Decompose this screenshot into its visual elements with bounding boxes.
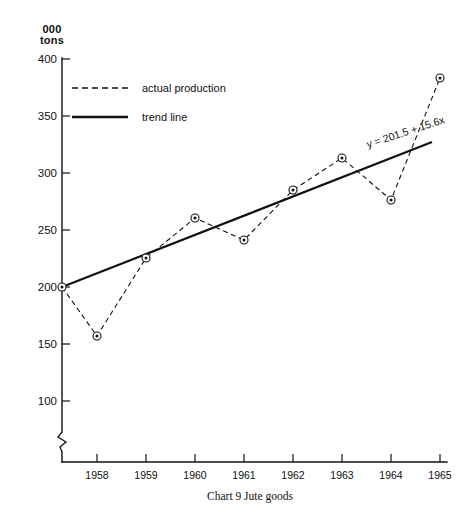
x-tick-label-1963: 1963 [330,469,354,481]
y-tick-label-350: 350 [38,110,57,122]
x-tick-label-1962: 1962 [281,469,305,481]
y-axis-unit-line2: tons [40,34,64,46]
data-point-1964 [387,196,395,204]
data-point-1960 [191,214,199,222]
trend-line-series [62,142,432,287]
chart-caption: Chart 9 Jute goods [207,490,293,503]
data-point-1963 [338,154,346,162]
legend-item-actual-production: actual production [72,82,226,94]
y-axis-ticks: 400 350 300 250 200 150 100 [38,53,70,407]
chart-legend: actual production trend line [72,82,226,123]
y-tick-label-250: 250 [38,224,57,236]
y-tick-label-400: 400 [38,53,57,65]
legend-item-trend-line: trend line [72,111,187,123]
trend-equation-annotation: y = 201.5 + 15.6x [365,113,447,150]
x-tick-label-1958: 1958 [85,469,109,481]
y-tick-label-300: 300 [38,167,57,179]
data-point-1962 [289,186,297,194]
chart-container: 000 tons 400 350 300 250 200 150 [0,0,475,515]
y-tick-label-150: 150 [38,338,57,350]
data-point-1959 [142,254,150,262]
data-point-1965 [436,74,444,82]
legend-label-trend-line: trend line [142,111,187,123]
data-point-1957-origin [58,283,66,291]
y-tick-label-100: 100 [38,395,57,407]
jute-goods-line-chart: 000 tons 400 350 300 250 200 150 [0,0,475,515]
y-tick-label-200: 200 [38,281,57,293]
x-tick-label-1960: 1960 [183,469,207,481]
data-point-markers [58,74,444,340]
x-tick-label-1965: 1965 [428,469,452,481]
x-tick-label-1964: 1964 [379,469,403,481]
x-axis-ticks: 1958 1959 1960 1961 1962 1963 1964 1965 [85,454,452,481]
x-tick-label-1959: 1959 [134,469,158,481]
x-tick-label-1961: 1961 [232,469,256,481]
y-axis-break-icon [58,432,66,452]
data-point-1961 [240,236,248,244]
legend-label-actual-production: actual production [142,82,226,94]
data-point-1958 [93,332,101,340]
